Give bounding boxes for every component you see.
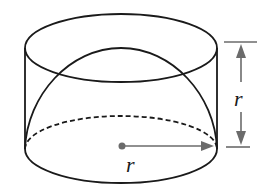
hemisphere-in-cylinder-diagram: r r [0,0,262,189]
radius-arrow [119,141,215,151]
cylinder-bottom-front-arc [25,149,217,183]
hemisphere-outline [25,48,217,149]
radius-arrowhead-icon [201,141,214,151]
height-label: r [234,86,243,111]
height-arrowhead-down-icon [236,131,246,145]
height-arrowhead-up-icon [236,44,246,58]
radius-label: r [126,152,135,177]
